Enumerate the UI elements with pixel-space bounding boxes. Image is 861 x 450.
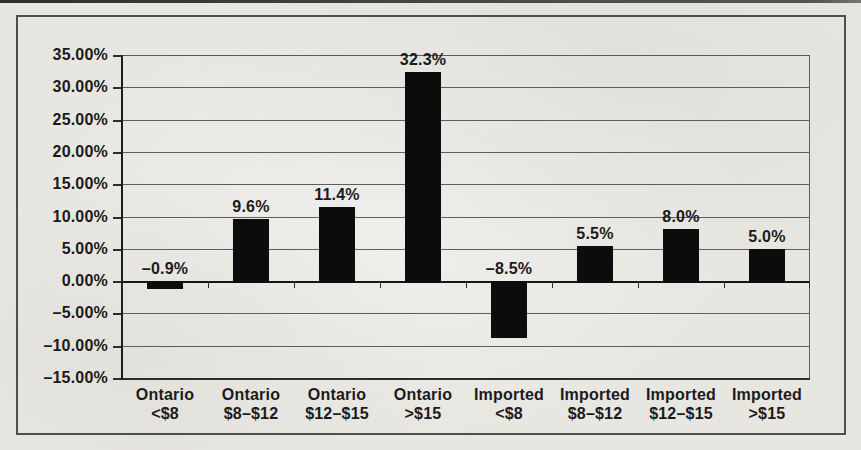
x-axis-tick xyxy=(122,281,123,288)
y-axis-tick xyxy=(113,249,121,251)
y-tick-label: –10.00% xyxy=(2,337,108,355)
x-axis-tick xyxy=(638,281,639,288)
y-tick-label: 10.00% xyxy=(2,208,108,226)
x-category-label: Ontario>$15 xyxy=(380,385,466,423)
x-category-label: Ontario$8–$12 xyxy=(208,385,294,423)
y-axis-line xyxy=(121,55,123,380)
y-tick-label: 5.00% xyxy=(2,240,108,258)
category-label-line1: Ontario xyxy=(380,385,466,404)
bar xyxy=(577,246,613,283)
bar xyxy=(233,219,269,283)
category-label-line2: >$15 xyxy=(724,404,810,423)
y-axis-tick xyxy=(113,55,121,57)
bar xyxy=(405,72,441,283)
x-axis-tick xyxy=(380,281,381,288)
category-label-line2: $12–$15 xyxy=(638,404,724,423)
category-label-line1: Ontario xyxy=(208,385,294,404)
y-axis-tick xyxy=(113,281,121,283)
bar xyxy=(491,281,527,338)
y-axis-tick xyxy=(113,217,121,219)
category-label-line1: Imported xyxy=(724,385,810,404)
x-axis-tick xyxy=(208,281,209,288)
x-axis-tick xyxy=(294,281,295,288)
category-label-line1: Imported xyxy=(466,385,552,404)
x-axis-baseline xyxy=(122,378,810,380)
y-tick-label: 0.00% xyxy=(2,272,108,290)
x-axis-tick xyxy=(466,281,467,288)
category-label-line1: Ontario xyxy=(122,385,208,404)
scanned-page: 35.00%30.00%25.00%20.00%15.00%10.00%5.00… xyxy=(0,0,861,450)
y-axis-tick xyxy=(113,378,121,380)
x-category-label: Ontario<$8 xyxy=(122,385,208,423)
x-axis-tick xyxy=(724,281,725,288)
scan-edge-artifact xyxy=(0,0,861,3)
y-tick-label: 15.00% xyxy=(2,175,108,193)
y-tick-label: 25.00% xyxy=(2,111,108,129)
category-label-line2: $12–$15 xyxy=(294,404,380,423)
bar-value-label: 9.6% xyxy=(206,197,296,216)
y-axis-tick xyxy=(113,313,121,315)
gridline xyxy=(122,346,810,347)
category-label-line2: <$8 xyxy=(122,404,208,423)
y-axis-tick xyxy=(113,120,121,122)
bar xyxy=(319,207,355,283)
y-tick-label: –15.00% xyxy=(2,369,108,387)
x-axis-tick xyxy=(809,281,810,288)
category-label-line2: <$8 xyxy=(466,404,552,423)
category-label-line1: Imported xyxy=(638,385,724,404)
gridline xyxy=(122,120,810,121)
bar-value-label: 5.0% xyxy=(722,227,812,246)
bar xyxy=(147,281,183,289)
y-tick-label: 20.00% xyxy=(2,143,108,161)
bar xyxy=(663,229,699,283)
y-tick-label: –5.00% xyxy=(2,304,108,322)
plot-right-border xyxy=(809,55,810,378)
category-label-line1: Imported xyxy=(552,385,638,404)
x-category-label: Ontario$12–$15 xyxy=(294,385,380,423)
y-axis-tick xyxy=(113,346,121,348)
gridline xyxy=(122,87,810,88)
category-label-line1: Ontario xyxy=(294,385,380,404)
gridline xyxy=(122,152,810,153)
category-label-line2: >$15 xyxy=(380,404,466,423)
y-axis-tick xyxy=(113,184,121,186)
y-tick-label: 35.00% xyxy=(2,46,108,64)
bar-value-label: 11.4% xyxy=(292,185,382,204)
gridline xyxy=(122,313,810,314)
y-tick-label: 30.00% xyxy=(2,78,108,96)
x-category-label: Imported>$15 xyxy=(724,385,810,423)
bar-value-label: 5.5% xyxy=(550,224,640,243)
x-category-label: Imported$8–$12 xyxy=(552,385,638,423)
bar-value-label: 32.3% xyxy=(378,50,468,69)
x-category-label: Imported$12–$15 xyxy=(638,385,724,423)
bar-value-label: –8.5% xyxy=(464,259,554,278)
bar-value-label: 8.0% xyxy=(636,207,726,226)
plot-area: 35.00%30.00%25.00%20.00%15.00%10.00%5.00… xyxy=(122,55,810,378)
x-axis-tick xyxy=(552,281,553,288)
category-label-line2: $8–$12 xyxy=(208,404,294,423)
gridline xyxy=(122,249,810,250)
gridline xyxy=(122,184,810,185)
bar xyxy=(749,249,785,283)
bar-value-label: –0.9% xyxy=(120,259,210,278)
category-label-line2: $8–$12 xyxy=(552,404,638,423)
x-category-label: Imported<$8 xyxy=(466,385,552,423)
y-axis-tick xyxy=(113,152,121,154)
y-axis-tick xyxy=(113,87,121,89)
